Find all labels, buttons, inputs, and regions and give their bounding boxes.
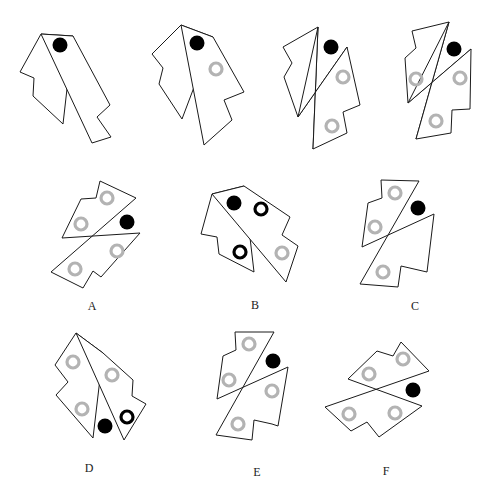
sequence-figure-4 <box>405 22 471 139</box>
option-a[interactable]: A <box>51 181 140 313</box>
option-d[interactable]: D <box>55 333 146 475</box>
sequence-figure-1 <box>20 34 111 143</box>
sequence-figure-2 <box>152 25 244 145</box>
option-label: B <box>251 298 259 312</box>
option-label: C <box>411 299 419 313</box>
black-dot <box>190 36 205 51</box>
black-dot <box>266 354 281 369</box>
option-label: E <box>253 465 260 479</box>
option-label: A <box>88 299 97 313</box>
black-dot <box>447 42 462 57</box>
black-dot <box>406 383 421 398</box>
upper-piece <box>51 181 140 288</box>
figure-reasoning-puzzle: A B C D E <box>0 0 490 491</box>
black-dot <box>227 196 242 211</box>
option-b[interactable]: B <box>201 186 298 312</box>
option-label: F <box>383 464 390 478</box>
black-dot <box>120 215 135 230</box>
option-f[interactable]: F <box>325 342 429 478</box>
sequence-figure-3 <box>283 27 360 149</box>
black-dot <box>98 419 113 434</box>
option-c[interactable]: C <box>360 180 434 313</box>
option-e[interactable]: E <box>216 332 288 479</box>
option-label: D <box>85 461 94 475</box>
black-dot <box>411 201 426 216</box>
black-dot <box>324 40 339 55</box>
black-dot <box>53 38 68 53</box>
